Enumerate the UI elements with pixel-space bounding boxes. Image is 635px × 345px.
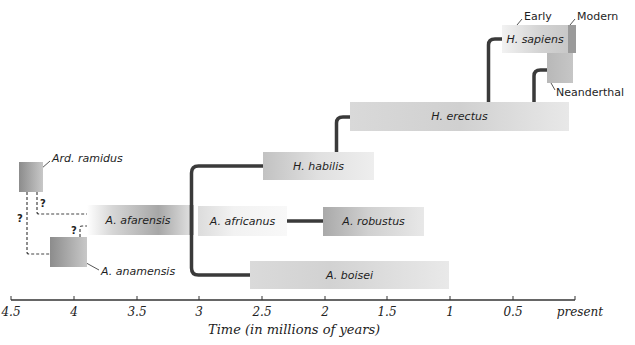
taxon-box-h-erectus: H. erectus — [350, 102, 569, 131]
link-anamensis-afarensis — [80, 226, 87, 237]
taxon-box-a-boisei: A. boisei — [250, 261, 449, 289]
uncertain-mark-ramidus-afarensis: ? — [40, 198, 46, 209]
callout-label-ard-ramidus: Ard. ramidus — [52, 152, 123, 165]
taxon-box-a-anamensis — [50, 237, 87, 267]
taxon-box-h-sapiens-modern — [568, 25, 576, 53]
callout-label-a-anamensis: A. anamensis — [101, 265, 175, 278]
link-erectus-neanderthal — [534, 70, 547, 102]
tick-label-1: 1 — [446, 305, 454, 319]
callout-label-early: Early — [524, 10, 552, 23]
taxon-box-a-africanus: A. africanus — [198, 206, 287, 236]
tick-label-1-5: 1.5 — [377, 305, 396, 319]
link-afarensis-habilis — [192, 166, 264, 205]
link-afarensis-africanus — [190, 205, 194, 235]
tick-label-4: 4 — [70, 305, 78, 319]
taxon-box-h-sapiens-early: H. sapiens — [502, 25, 568, 53]
axis-title: Time (in millions of years) — [208, 322, 380, 337]
callout-label-neanderthal: Neanderthal — [556, 86, 624, 99]
uncertain-mark-anamensis-afarensis: ? — [71, 225, 77, 236]
link-erectus-sapiens — [489, 39, 503, 102]
tick-label-0-5: 0.5 — [503, 305, 522, 319]
tick-label-2-5: 2.5 — [252, 305, 271, 319]
tick-label-3-5: 3.5 — [127, 305, 146, 319]
link-afarensis-boisei — [192, 235, 251, 275]
uncertain-mark-ramidus-anamensis: ? — [17, 213, 23, 224]
taxon-box-ard-ramidus — [19, 162, 43, 192]
taxon-box-a-afarensis: A. afarensis — [87, 205, 189, 235]
link-habilis-erectus — [337, 117, 351, 152]
taxon-box-neanderthal — [547, 53, 573, 83]
link-ramidus-anamensis — [27, 192, 50, 254]
tick-label-4-5: 4.5 — [1, 305, 20, 319]
callout-line-neanderthal — [551, 83, 555, 90]
tick-label-3: 3 — [195, 305, 203, 319]
taxon-box-h-habilis: H. habilis — [263, 152, 374, 180]
tick-label-2: 2 — [321, 305, 329, 319]
tick-label-present: present — [557, 305, 603, 319]
taxon-box-a-robustus: A. robustus — [323, 207, 424, 236]
callout-label-modern: Modern — [577, 10, 618, 23]
